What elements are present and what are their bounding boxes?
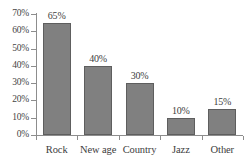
bar (43, 23, 71, 135)
y-axis-line (36, 13, 37, 136)
x-axis-tick (36, 136, 37, 140)
x-axis-line (36, 135, 243, 136)
y-axis-tick (31, 83, 36, 84)
bar-value-label: 40% (78, 54, 118, 64)
bar-value-label: 30% (120, 71, 160, 81)
y-axis-tick (31, 31, 36, 32)
x-axis-category-label: Other (192, 144, 250, 155)
x-axis-tick (119, 136, 120, 140)
y-axis-tick-label: 50% (0, 44, 29, 54)
bar (84, 66, 112, 135)
y-axis-tick-label: 30% (0, 78, 29, 88)
x-axis-tick (202, 136, 203, 140)
y-axis-tick (31, 14, 36, 15)
y-axis-tick-label: 10% (0, 113, 29, 123)
y-axis-tick (31, 118, 36, 119)
bar (208, 109, 236, 135)
bar-value-label: 15% (202, 97, 242, 107)
y-axis-tick-label: 40% (0, 61, 29, 71)
y-axis-tick-label: 20% (0, 95, 29, 105)
y-axis-tick-label: 60% (0, 26, 29, 36)
y-axis-tick (31, 49, 36, 50)
bar-chart: 0%10%20%30%40%50%60%70% 65%40%30%10%15% … (0, 0, 250, 163)
bar-value-label: 65% (37, 11, 77, 21)
x-axis-tick (77, 136, 78, 140)
bar-value-label: 10% (161, 106, 201, 116)
x-axis-tick (243, 136, 244, 140)
bar (167, 118, 195, 135)
y-axis-tick (31, 100, 36, 101)
bar (126, 83, 154, 135)
x-axis-tick (160, 136, 161, 140)
y-axis-tick-label: 70% (0, 9, 29, 19)
y-axis-tick-label: 0% (0, 130, 29, 140)
y-axis-tick (31, 66, 36, 67)
